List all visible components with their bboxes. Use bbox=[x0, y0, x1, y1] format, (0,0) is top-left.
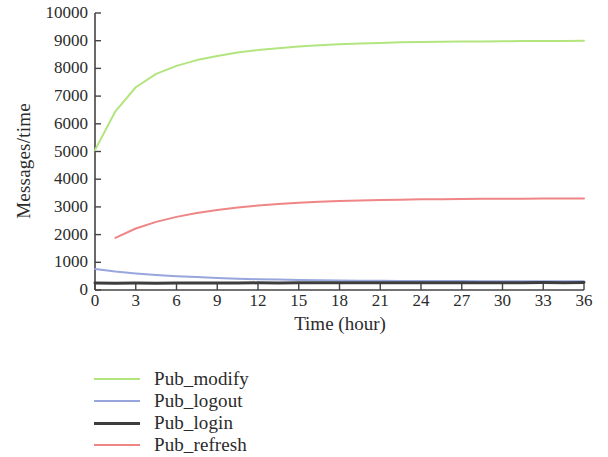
x-tick-label: 21 bbox=[360, 292, 400, 309]
x-tick-label: 0 bbox=[75, 292, 115, 309]
x-tick-label: 30 bbox=[483, 292, 523, 309]
legend-item[interactable]: Pub_logout bbox=[94, 390, 394, 412]
series-line-pub-refresh bbox=[115, 198, 584, 237]
legend-item[interactable]: Pub_refresh bbox=[94, 434, 394, 456]
x-tick-label: 6 bbox=[157, 292, 197, 309]
legend-item-label: Pub_logout bbox=[154, 390, 243, 412]
x-tick-label: 33 bbox=[523, 292, 563, 309]
x-tick-label: 3 bbox=[116, 292, 156, 309]
x-tick-label: 15 bbox=[279, 292, 319, 309]
legend-item-label: Pub_refresh bbox=[154, 434, 247, 456]
x-tick-label: 24 bbox=[401, 292, 441, 309]
axis-lines bbox=[95, 13, 584, 290]
series-line-pub-logout bbox=[95, 269, 584, 281]
x-tick-label: 27 bbox=[442, 292, 482, 309]
x-tick-label: 12 bbox=[238, 292, 278, 309]
legend-item-label: Pub_login bbox=[154, 412, 233, 434]
legend-color-swatch bbox=[94, 400, 140, 402]
chart-legend: Pub_modifyPub_logoutPub_loginPub_refresh bbox=[94, 368, 394, 456]
x-tick-label: 18 bbox=[320, 292, 360, 309]
legend-color-swatch bbox=[94, 422, 140, 425]
series-line-pub-modify bbox=[95, 41, 584, 150]
x-tick-label: 9 bbox=[197, 292, 237, 309]
chart-figure: 0100020003000400050006000700080009000100… bbox=[0, 0, 608, 457]
series-lines bbox=[95, 41, 584, 283]
legend-color-swatch bbox=[94, 444, 140, 446]
legend-item-label: Pub_modify bbox=[154, 368, 249, 390]
series-line-pub-login bbox=[95, 283, 584, 284]
y-tick-label: 9000 bbox=[10, 32, 88, 49]
legend-item[interactable]: Pub_login bbox=[94, 412, 394, 434]
y-tick-label: 10000 bbox=[10, 4, 88, 21]
legend-item[interactable]: Pub_modify bbox=[94, 368, 394, 390]
legend-color-swatch bbox=[94, 378, 140, 380]
x-tick-label: 36 bbox=[564, 292, 604, 309]
y-axis-title: Messages/time bbox=[13, 51, 35, 271]
x-axis-title: Time (hour) bbox=[95, 313, 585, 335]
